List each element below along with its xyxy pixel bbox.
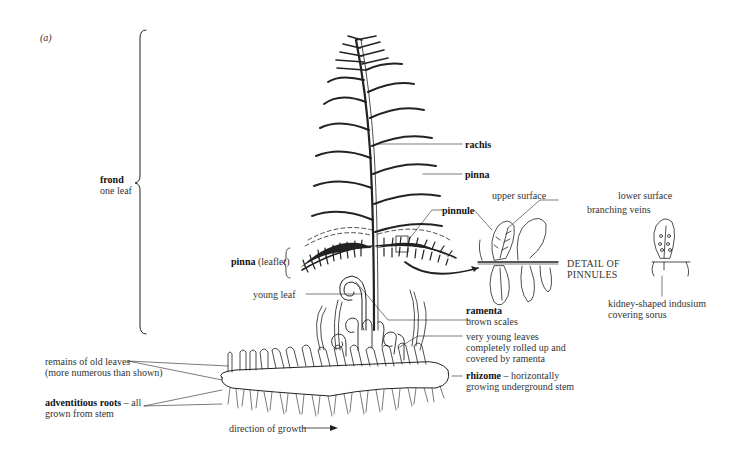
croziers bbox=[332, 318, 405, 360]
label-upper-surface: upper surface bbox=[492, 190, 546, 201]
label-detail-of-pinnules: DETAIL OF PINNULES bbox=[567, 258, 620, 280]
pinnae-left bbox=[312, 77, 373, 220]
pinnae-right bbox=[366, 64, 442, 232]
panel-label: (a) bbox=[40, 32, 52, 43]
label-pinnule: pinnule bbox=[442, 205, 474, 216]
old-leaf-bases bbox=[228, 290, 426, 372]
label-rachis: rachis bbox=[465, 139, 491, 150]
label-young-leaf: young leaf bbox=[253, 289, 296, 300]
fern-diagram bbox=[0, 0, 736, 454]
label-adventitious-roots: adventitious roots – all grown from stem bbox=[45, 397, 141, 419]
label-very-young-leaves: very young leaves completely rolled up a… bbox=[466, 331, 566, 364]
label-indusium: kidney-shaped indusium covering sorus bbox=[608, 298, 706, 320]
label-pinna: pinna bbox=[465, 169, 489, 180]
label-ramenta: ramenta brown scales bbox=[466, 305, 518, 327]
label-rhizome: rhizome – horizontally growing undergrou… bbox=[466, 370, 574, 392]
label-direction-of-growth: direction of growth bbox=[229, 423, 306, 434]
label-pinna-leaflet: pinna (leaflet) bbox=[231, 256, 290, 267]
label-lower-surface: lower surface bbox=[618, 190, 672, 201]
rhizome bbox=[221, 362, 449, 396]
young-leaf-crozier bbox=[340, 276, 366, 330]
lower-surface-pinnule bbox=[652, 219, 690, 276]
frond-brace bbox=[135, 30, 146, 334]
label-branching-veins: branching veins bbox=[587, 204, 651, 215]
label-old-leaves: remains of old leaves (more numerous tha… bbox=[45, 356, 162, 378]
pinnule-detail bbox=[478, 218, 558, 304]
label-frond: frond one leaf bbox=[100, 174, 132, 196]
